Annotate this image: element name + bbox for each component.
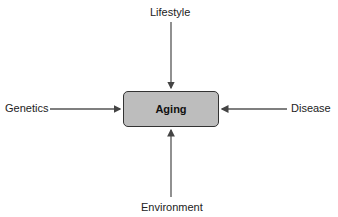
aging-label: Aging [155, 103, 186, 115]
factor-genetics: Genetics [5, 102, 48, 114]
factor-lifestyle: Lifestyle [150, 6, 190, 18]
aging-box: Aging [123, 91, 219, 127]
factor-environment: Environment [141, 201, 203, 213]
factor-disease: Disease [291, 102, 331, 114]
